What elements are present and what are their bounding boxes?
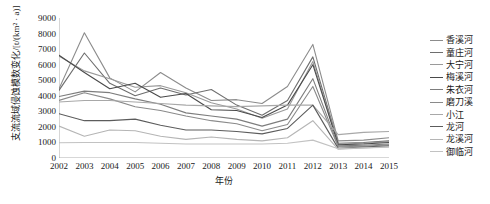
legend-item[interactable]: 童庄河	[430, 46, 490, 58]
y-tick-label: 9000	[18, 14, 56, 23]
y-tick-label: 1000	[18, 138, 56, 147]
series-line	[59, 33, 389, 141]
legend-color-swatch	[430, 114, 443, 115]
legend-item[interactable]: 朱衣河	[430, 84, 490, 96]
legend-item[interactable]: 梅溪河	[430, 71, 490, 83]
legend-color-swatch	[430, 102, 443, 103]
legend-color-swatch	[430, 89, 443, 90]
legend-item[interactable]: 香溪河	[430, 34, 490, 46]
series-lines	[59, 18, 389, 158]
legend-label: 龙溪河	[446, 134, 473, 144]
x-axis-tick-labels: 2002200320042005200620072008200920102011…	[59, 161, 389, 175]
y-axis-tick-labels: 0100020003000400050006000700080009000	[18, 18, 56, 158]
legend-color-swatch	[430, 40, 443, 41]
legend-color-swatch	[430, 52, 443, 53]
legend-item[interactable]: 磨刀溪	[430, 96, 490, 108]
y-tick-label: 6000	[18, 60, 56, 69]
legend-item[interactable]: 龙溪河	[430, 133, 490, 145]
legend-label: 童庄河	[446, 48, 473, 58]
legend-label: 朱衣河	[446, 85, 473, 95]
x-axis-title: 年份	[59, 176, 389, 187]
series-line	[59, 79, 389, 146]
legend: 香溪河童庄河大宁河梅溪河朱衣河磨刀溪小江龙河龙溪河御临河	[430, 34, 490, 158]
legend-color-swatch	[430, 139, 443, 140]
x-tick-label: 2015	[372, 161, 406, 172]
legend-label: 梅溪河	[446, 72, 473, 82]
legend-color-swatch	[430, 151, 443, 152]
legend-color-swatch	[430, 77, 443, 78]
y-tick-label: 5000	[18, 76, 56, 85]
legend-item[interactable]: 大宁河	[430, 59, 490, 71]
legend-item[interactable]: 御临河	[430, 146, 490, 158]
legend-item[interactable]: 龙河	[430, 121, 490, 133]
legend-label: 香溪河	[446, 35, 473, 45]
legend-color-swatch	[430, 64, 443, 65]
series-line	[59, 105, 389, 148]
legend-label: 龙河	[446, 122, 464, 132]
y-tick-label: 2000	[18, 122, 56, 131]
legend-label: 御临河	[446, 147, 473, 157]
legend-label: 大宁河	[446, 60, 473, 70]
y-tick-label: 3000	[18, 107, 56, 116]
legend-color-swatch	[430, 126, 443, 127]
y-tick-label: 8000	[18, 29, 56, 38]
y-tick-label: 4000	[18, 91, 56, 100]
erosion-modulus-line-chart: 支流流域侵蚀模数变化/[t/(km² · a)] 010002000300040…	[0, 0, 490, 204]
y-tick-label: 7000	[18, 45, 56, 54]
legend-label: 小江	[446, 110, 464, 120]
plot-area	[59, 18, 389, 158]
legend-item[interactable]: 小江	[430, 108, 490, 120]
legend-label: 磨刀溪	[446, 97, 473, 107]
